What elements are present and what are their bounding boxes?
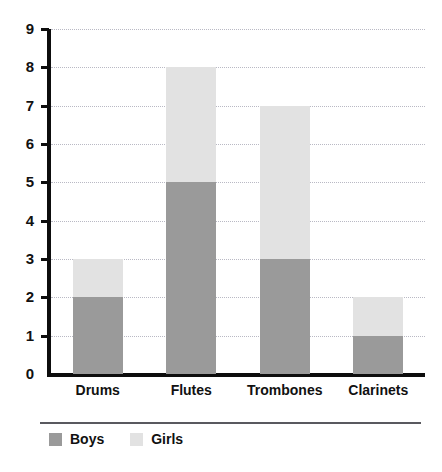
y-tick-mark-1 (41, 335, 49, 338)
y-tick-label-3: 3 (8, 251, 34, 266)
y-tick-label-4: 4 (8, 213, 34, 228)
bar-segment-drums-boys (73, 297, 123, 374)
x-tick-label-trombones: Trombones (238, 383, 332, 397)
y-tick-label-5: 5 (8, 174, 34, 189)
bar-trombones (260, 106, 310, 374)
plot-area (51, 29, 425, 374)
bar-segment-clarinets-boys (353, 336, 403, 374)
y-tick-label-1: 1 (8, 328, 34, 343)
y-tick-mark-3 (41, 258, 49, 261)
bar-segment-clarinets-girls (353, 297, 403, 335)
x-tick-label-clarinets: Clarinets (332, 383, 426, 397)
y-tick-label-7: 7 (8, 98, 34, 113)
y-tick-label-8: 8 (8, 59, 34, 74)
y-tick-label-2: 2 (8, 289, 34, 304)
bar-segment-flutes-boys (166, 182, 216, 374)
y-tick-mark-8 (41, 66, 49, 69)
bar-clarinets (353, 297, 403, 374)
bar-flutes (166, 67, 216, 374)
legend-divider (40, 422, 421, 424)
legend-item-girls: Girls (130, 432, 183, 446)
y-tick-label-0: 0 (8, 366, 34, 381)
y-tick-mark-4 (41, 220, 49, 223)
stacked-bar-chart: 0123456789 DrumsFlutesTrombonesClarinets… (0, 0, 442, 472)
legend-item-boys: Boys (49, 432, 104, 446)
legend-swatch-boys (49, 433, 62, 446)
chart-legend: BoysGirls (49, 432, 183, 446)
bar-segment-flutes-girls (166, 67, 216, 182)
bar-segment-drums-girls (73, 259, 123, 297)
y-tick-mark-7 (41, 105, 49, 108)
y-tick-label-6: 6 (8, 136, 34, 151)
legend-label-boys: Boys (70, 432, 104, 446)
bar-drums (73, 259, 123, 374)
legend-label-girls: Girls (151, 432, 183, 446)
bar-segment-trombones-girls (260, 106, 310, 259)
x-tick-label-drums: Drums (51, 383, 145, 397)
x-tick-label-flutes: Flutes (145, 383, 239, 397)
y-tick-mark-5 (41, 181, 49, 184)
legend-swatch-girls (130, 433, 143, 446)
y-tick-mark-6 (41, 143, 49, 146)
bar-segment-trombones-boys (260, 259, 310, 374)
y-tick-mark-2 (41, 296, 49, 299)
y-tick-label-9: 9 (8, 21, 34, 36)
y-tick-mark-9 (41, 28, 49, 31)
